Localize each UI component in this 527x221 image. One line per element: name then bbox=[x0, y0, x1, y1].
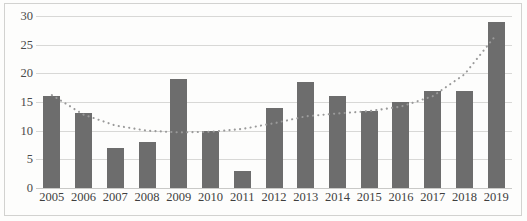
x-tick-label-2016: 2016 bbox=[388, 191, 413, 204]
y-tick-label: 20 bbox=[3, 67, 33, 80]
bar-2011[interactable] bbox=[234, 171, 251, 188]
bar-2015[interactable] bbox=[361, 111, 378, 188]
y-tick-label: 10 bbox=[3, 124, 33, 137]
bar-2010[interactable] bbox=[202, 131, 219, 188]
x-tick-label-2012: 2012 bbox=[262, 191, 287, 204]
bar-2018[interactable] bbox=[456, 91, 473, 188]
bar-2005[interactable] bbox=[43, 96, 60, 188]
bar-2009[interactable] bbox=[170, 79, 187, 188]
x-tick-label-2013: 2013 bbox=[293, 191, 318, 204]
x-tick-label-2015: 2015 bbox=[357, 191, 382, 204]
x-tick-label-2011: 2011 bbox=[230, 191, 255, 204]
bar-2016[interactable] bbox=[392, 102, 409, 188]
x-tick-label-2006: 2006 bbox=[71, 191, 96, 204]
y-axis: 051015202530 bbox=[0, 16, 33, 188]
x-tick-label-2018: 2018 bbox=[452, 191, 477, 204]
x-tick-label-2014: 2014 bbox=[325, 191, 350, 204]
x-tick-label-2009: 2009 bbox=[166, 191, 191, 204]
gridline-0 bbox=[36, 188, 512, 189]
x-tick-label-2010: 2010 bbox=[198, 191, 223, 204]
bar-2006[interactable] bbox=[75, 113, 92, 188]
bar-chart: 051015202530 200520062007200820092010201… bbox=[0, 0, 527, 221]
gridline-25 bbox=[36, 45, 512, 46]
bar-2017[interactable] bbox=[424, 91, 441, 188]
bar-2013[interactable] bbox=[297, 82, 314, 188]
gridline-20 bbox=[36, 73, 512, 74]
x-tick-label-2007: 2007 bbox=[103, 191, 128, 204]
y-tick-label: 0 bbox=[3, 182, 33, 195]
x-axis: 2005200620072008200920102011201220132014… bbox=[36, 191, 512, 213]
bar-2008[interactable] bbox=[139, 142, 156, 188]
bar-2019[interactable] bbox=[488, 22, 505, 188]
x-tick-label-2008: 2008 bbox=[135, 191, 160, 204]
x-tick-label-2005: 2005 bbox=[39, 191, 64, 204]
plot-area bbox=[36, 16, 512, 188]
y-tick-label: 5 bbox=[3, 153, 33, 166]
x-tick-label-2019: 2019 bbox=[484, 191, 509, 204]
gridline-30 bbox=[36, 16, 512, 17]
y-tick-label: 15 bbox=[3, 96, 33, 109]
bar-2012[interactable] bbox=[266, 108, 283, 188]
bar-2007[interactable] bbox=[107, 148, 124, 188]
bar-2014[interactable] bbox=[329, 96, 346, 188]
y-tick-label: 30 bbox=[3, 10, 33, 23]
x-tick-label-2017: 2017 bbox=[420, 191, 445, 204]
y-tick-label: 25 bbox=[3, 38, 33, 51]
